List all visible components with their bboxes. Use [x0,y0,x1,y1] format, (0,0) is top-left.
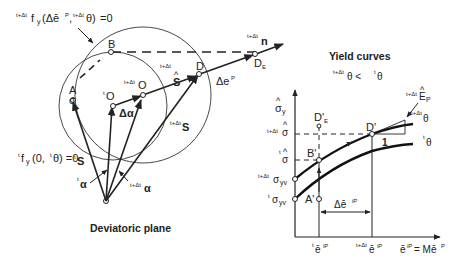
svg-text:t+Δt: t+Δt [333,69,344,75]
svg-text:σ: σ [272,194,279,205]
svg-text:(0,: (0, [32,152,45,164]
svg-text:t: t [268,193,270,199]
vector-s-hat [143,76,196,95]
svg-text:S: S [182,121,189,133]
ytick-sigma-hat-tdt: t+Δt ^ σ [267,120,289,138]
label-d: D [196,60,204,72]
label-d-prime: D' [366,121,376,133]
svg-text:y: y [37,18,41,26]
point-a-prime [317,197,322,202]
svg-text:ē: ē [369,244,375,255]
svg-text:E: E [324,118,328,124]
svg-text:t: t [103,90,105,96]
svg-text:t: t [279,149,281,155]
svg-text:t+Δt: t+Δt [411,110,422,116]
svg-text:t+Δt: t+Δt [406,91,417,97]
point-b-prime [317,158,322,163]
yield-curves-title: Yield curves [329,50,391,62]
label-de: D E [254,57,266,70]
theta-condition: t+Δt θ < t θ [333,69,383,82]
tangent-ep-label: t+Δt ^ E P [406,85,431,103]
svg-text:α: α [80,178,87,190]
slope-label: 1 [382,137,388,148]
caption-deviatoric-plane: Deviatoric plane [90,222,171,234]
yield-curves-chart: Yield curves t+Δt θ < t θ ^ σ y [258,50,445,255]
point-o-tdt [141,93,146,98]
point-d [197,72,202,77]
svg-text:D: D [254,57,262,69]
xtick-e-t: t ē iP [312,242,328,255]
label-a-prime: A' [305,193,314,205]
svg-text:O: O [138,79,147,91]
svg-text:S: S [173,76,180,88]
label-n: t+Δt n [247,33,268,47]
svg-text:f: f [31,12,35,24]
pointer-outer-label [78,28,93,43]
svg-text:yv: yv [279,199,287,207]
svg-text:θ <: θ < [347,71,361,82]
label-s-tdt: t+Δt S [170,120,189,133]
svg-text:t+Δt: t+Δt [130,182,141,188]
svg-text:iP: iP [323,243,328,249]
point-o-t [111,104,116,109]
svg-text:t+Δt: t+Δt [267,128,278,134]
svg-text:ē: ē [315,244,321,255]
svg-text:S: S [77,155,84,167]
svg-text:t+Δt: t+Δt [356,242,367,248]
svg-text:θ): θ) [86,12,96,24]
svg-text:θ: θ [423,113,429,124]
svg-text:iP: iP [407,243,412,249]
svg-text:= Mē: = Mē [414,244,437,255]
svg-text:O: O [106,90,115,102]
svg-text:yv: yv [280,179,288,187]
svg-text:t: t [77,176,79,182]
svg-text:,: , [69,12,72,24]
svg-text:t+Δt: t+Δt [73,12,84,18]
svg-text:σ: σ [273,174,280,185]
point-de-prime [317,124,321,128]
svg-text:D': D' [314,111,324,123]
vector-delta-ep [200,55,253,74]
svg-text:t+Δt: t+Δt [160,63,171,69]
label-alpha-t: t α [77,176,87,190]
point-sigma-yv-tdt [293,177,298,182]
svg-text:Δe: Δe [216,75,229,87]
pointer-alpha-t [90,170,107,183]
svg-text:(Δē: (Δē [42,12,59,24]
svg-text:θ: θ [426,137,432,148]
svg-text:P: P [441,243,445,249]
svg-text:t: t [423,134,425,140]
svg-text:P: P [231,75,235,81]
svg-text:P: P [426,96,431,103]
svg-text:ē: ē [400,244,406,255]
ytick-sigma-yv-t: t σ yv [268,193,287,207]
label-o-t: t O [103,90,115,102]
svg-text:t+Δt: t+Δt [170,120,181,126]
svg-text:Δē: Δē [334,199,347,210]
svg-text:t: t [50,152,52,158]
point-de [253,52,258,57]
curve-label-theta-tdt: t+Δt θ [411,110,429,124]
svg-text:n: n [261,35,268,47]
x-axis-label: ē iP = Mē P [400,243,445,255]
delta-e-label: Δē iP [334,198,357,210]
vector-s-tdt [106,75,198,201]
outer-yield-label: t+Δt f y (Δē P , t+Δt θ) =0 [16,12,113,26]
point-b [109,50,114,55]
svg-text:σ: σ [282,127,289,138]
ytick-sigma-hat-t: t ^ σ [279,147,289,165]
label-o-tdt: t+Δt O [124,79,147,91]
label-alpha-tdt: t+Δt α [130,182,151,194]
svg-text:t+Δt: t+Δt [258,173,269,179]
svg-text:σ: σ [282,154,289,165]
deviatoric-plane: t+Δt f y (Δē P , t+Δt θ) =0 t f y (0, t … [16,12,283,234]
inner-yield-label: t f y (0, t θ) =0 [18,152,78,166]
label-delta-alpha: Δα [119,107,134,119]
svg-text:t: t [312,242,314,248]
svg-text:α: α [144,182,151,194]
svg-text:t: t [374,69,376,75]
svg-text:f: f [21,152,25,164]
svg-text:=0: =0 [100,12,113,24]
svg-text:t+Δt: t+Δt [124,79,135,85]
svg-text:t+Δt: t+Δt [16,12,27,18]
